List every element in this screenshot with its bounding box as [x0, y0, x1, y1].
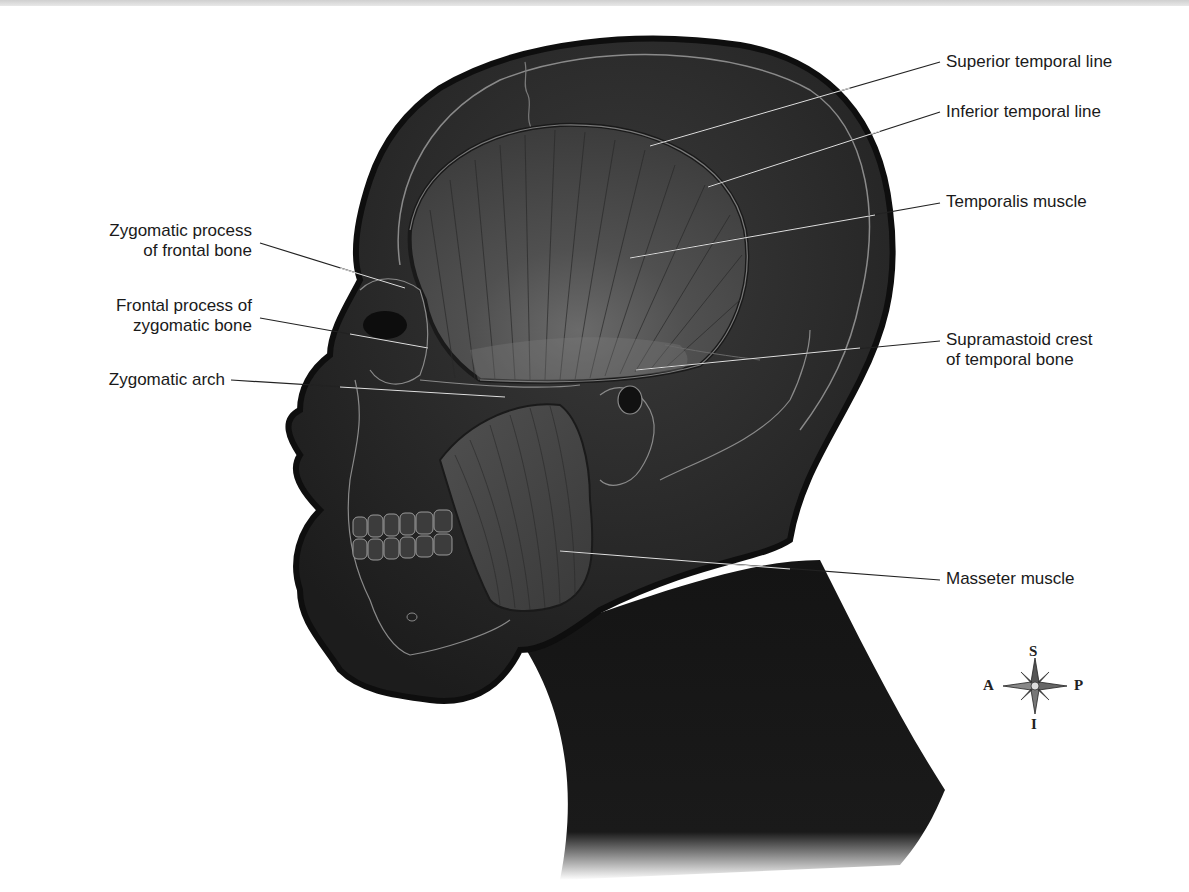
compass-anterior: A	[983, 677, 994, 694]
eye	[363, 311, 407, 339]
label-superior-temporal-line: Superior temporal line	[946, 52, 1112, 72]
label-zygomatic-process-of-frontal-bone: Zygomatic process of frontal bone	[20, 221, 252, 261]
label-temporalis-muscle: Temporalis muscle	[946, 192, 1087, 212]
compass-rose	[1003, 658, 1067, 714]
label-zygomatic-arch: Zygomatic arch	[20, 370, 225, 390]
compass-superior: S	[1029, 643, 1037, 660]
compass-posterior: P	[1074, 677, 1083, 694]
label-masseter-muscle: Masseter muscle	[946, 569, 1074, 589]
head-illustration	[0, 0, 1189, 892]
compass-inferior: I	[1031, 716, 1037, 733]
ear-canal	[618, 386, 642, 414]
label-frontal-process-of-zygomatic-bone: Frontal process of zygomatic bone	[20, 296, 252, 336]
label-inferior-temporal-line: Inferior temporal line	[946, 102, 1101, 122]
label-supramastoid-crest: Supramastoid crest of temporal bone	[946, 330, 1092, 370]
